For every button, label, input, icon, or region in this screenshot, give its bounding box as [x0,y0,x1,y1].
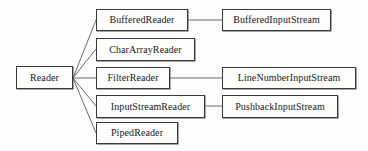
node-char-array-reader[interactable]: CharArrayReader [96,38,195,61]
node-label-piped-reader: PipedReader [111,128,163,138]
node-label-line-number-input-stream: LineNumberInputStream [238,73,341,83]
edge-reader-input-stream-reader [73,78,96,106]
node-pushback-input-stream[interactable]: PushbackInputStream [222,95,338,118]
node-buffered-reader[interactable]: BufferedReader [96,9,188,31]
class-hierarchy-diagram: ReaderBufferedReaderCharArrayReaderFilte… [0,0,368,151]
node-label-buffered-input-stream: BufferedInputStream [233,15,320,25]
node-label-filter-reader: FilterReader [107,73,158,83]
node-label-pushback-input-stream: PushbackInputStream [235,101,325,111]
edge-reader-char-array-reader [73,49,96,78]
edge-reader-piped-reader [73,78,96,133]
node-label-reader: Reader [30,72,59,82]
node-label-input-stream-reader: InputStreamReader [111,101,190,111]
node-label-buffered-reader: BufferedReader [109,15,174,25]
node-reader[interactable]: Reader [16,66,73,89]
node-filter-reader[interactable]: FilterReader [96,67,170,89]
node-buffered-input-stream[interactable]: BufferedInputStream [222,9,331,31]
edge-reader-buffered-reader [73,20,96,78]
node-piped-reader[interactable]: PipedReader [96,122,178,144]
node-line-number-input-stream[interactable]: LineNumberInputStream [222,67,356,89]
node-label-char-array-reader: CharArrayReader [109,44,182,54]
node-input-stream-reader[interactable]: InputStreamReader [96,95,205,118]
